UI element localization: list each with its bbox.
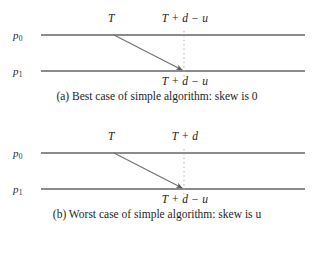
lower-receive-time-label: T + d − u bbox=[162, 76, 209, 88]
timeline-diagram-b bbox=[0, 118, 314, 208]
lower-receive-time-label: T + d − u bbox=[162, 194, 209, 206]
upper-receive-time-label: T + d bbox=[172, 131, 198, 143]
process-label-p0: p0 bbox=[13, 30, 22, 41]
process-label-p1: p1 bbox=[13, 184, 22, 195]
figure-simple-algorithm-skew: p0 p1 T T + d − u T + d − u (a) Best cas… bbox=[0, 0, 314, 257]
process-label-p0: p0 bbox=[13, 148, 22, 159]
message-arrow bbox=[114, 153, 182, 188]
figure-panel-a: p0 p1 T T + d − u T + d − u (a) Best cas… bbox=[0, 0, 314, 112]
upper-receive-time-label: T + d − u bbox=[162, 13, 209, 25]
message-arrow bbox=[114, 35, 182, 70]
process-label-p1: p1 bbox=[13, 66, 22, 77]
timeline-diagram-a bbox=[0, 0, 314, 90]
subcaption-b: (b) Worst case of simple algorithm: skew… bbox=[0, 208, 314, 221]
subcaption-a: (a) Best case of simple algorithm: skew … bbox=[0, 90, 314, 103]
figure-panel-b: p0 p1 T T + d T + d − u (b) Worst case o… bbox=[0, 118, 314, 230]
send-time-label: T bbox=[108, 131, 115, 143]
send-time-label: T bbox=[108, 13, 115, 25]
